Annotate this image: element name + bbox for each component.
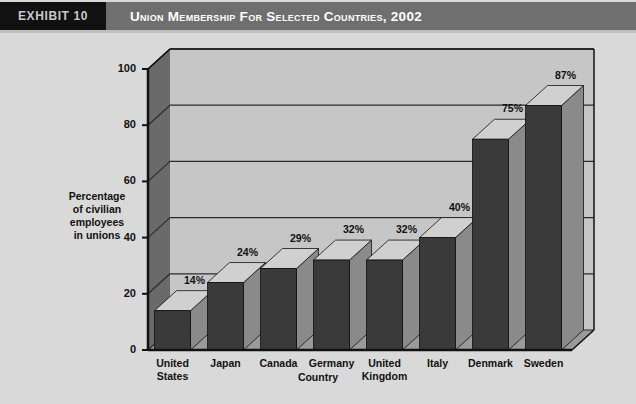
x-axis-category-line: Sweden — [508, 357, 580, 370]
bar-value-label: 24% — [223, 246, 273, 258]
bar-value-label: 75% — [488, 102, 538, 114]
exhibit-tag-label: EXHIBIT 10 — [18, 9, 88, 23]
bar-value-label: 32% — [329, 223, 379, 235]
y-axis-title-line: Percentage — [47, 190, 147, 203]
bar-value-label: 40% — [435, 201, 485, 213]
bar-front-face — [208, 283, 244, 350]
x-axis-title: Country — [0, 371, 636, 383]
y-axis-tick-label: 100 — [102, 62, 136, 74]
bar-front-face — [526, 106, 562, 350]
bar-side-face — [562, 86, 584, 350]
y-axis-tick-label: 60 — [102, 174, 136, 186]
y-axis-title-line: of civilian — [47, 203, 147, 216]
y-axis-tick-label: 80 — [102, 118, 136, 130]
bar-front-face — [155, 311, 191, 350]
bar-front-face — [473, 139, 509, 350]
y-axis-tick-label: 40 — [102, 231, 136, 243]
bar-front-face — [367, 260, 403, 350]
y-axis-title-line: employees — [47, 216, 147, 229]
bar-value-label: 87% — [541, 69, 591, 81]
bar-front-face — [261, 269, 297, 350]
chart-container: Percentageof civilianemployeesin unions … — [0, 33, 636, 404]
x-axis-category-line: Kingdom — [349, 370, 421, 383]
bar-value-label: 29% — [276, 232, 326, 244]
bar-front-face — [420, 238, 456, 350]
bar-value-label: 14% — [170, 274, 220, 286]
bar-value-label: 32% — [382, 223, 432, 235]
y-axis-tick-label: 20 — [102, 287, 136, 299]
y-axis-tick-label: 0 — [102, 343, 136, 355]
x-axis-category-label: Sweden — [508, 357, 580, 370]
bar-front-face — [314, 260, 350, 350]
exhibit-title: Union Membership for Selected Countries,… — [130, 2, 422, 30]
x-axis-category-line: States — [137, 370, 209, 383]
exhibit-tag: EXHIBIT 10 — [0, 2, 106, 30]
